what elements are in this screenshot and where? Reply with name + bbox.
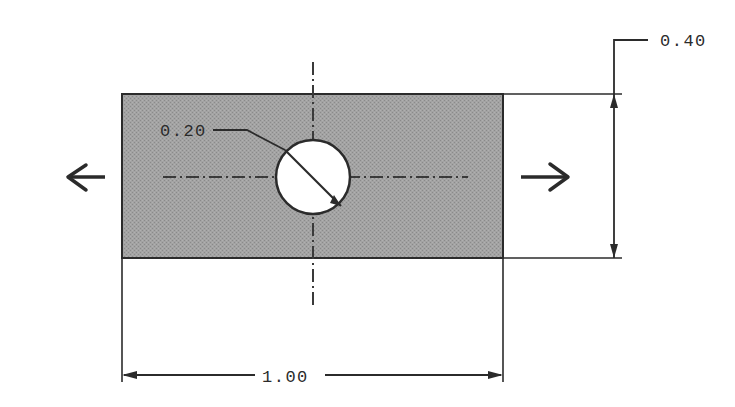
drawing-svg: 0.20 0.40 xyxy=(0,0,735,407)
height-dimension: 0.40 xyxy=(503,32,707,258)
right-tension-arrow xyxy=(521,164,568,190)
width-dimension-label: 1.00 xyxy=(262,368,309,387)
height-dim-leader xyxy=(614,40,648,94)
width-dim-arrowhead-left xyxy=(122,371,137,379)
height-dim-arrowhead-bottom xyxy=(610,244,618,258)
hole xyxy=(276,140,350,214)
hole-diameter-label: 0.20 xyxy=(160,122,207,141)
width-dim-arrowhead-right xyxy=(488,371,503,379)
height-dim-arrowhead-top xyxy=(610,94,618,108)
technical-drawing-canvas: 0.20 0.40 xyxy=(0,0,735,407)
left-tension-arrow xyxy=(68,165,105,190)
height-dimension-label: 0.40 xyxy=(660,32,707,51)
